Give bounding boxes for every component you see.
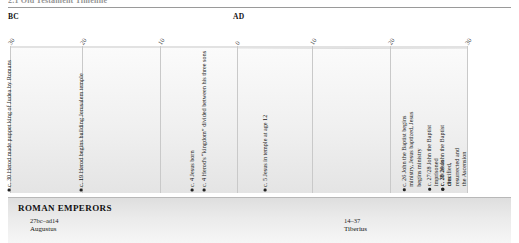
event-bullet-icon — [8, 189, 11, 192]
event-bullet-icon — [80, 189, 83, 192]
axis-tick-4: 10 — [308, 37, 317, 46]
roman-emperors-panel: ROMAN EMPERORS 27bc–ad14Augustus14–37Tib… — [8, 197, 511, 243]
event-label: c. 30 Herod made puppet king of Judea by… — [5, 60, 12, 187]
event-bullet-icon — [264, 189, 267, 192]
event-label: c. 26 John the Baptist begins ministry, … — [400, 94, 422, 187]
event-bullet-icon — [428, 189, 431, 192]
event-label: c. 4 Jesus born — [188, 150, 195, 186]
event-bullet-icon — [403, 189, 406, 192]
axis-tick-2: 10 — [156, 37, 165, 46]
band-curve-highlight — [237, 48, 467, 49]
reign-years: 14–37 — [344, 216, 367, 225]
event-bullet-icon — [191, 189, 194, 192]
emperor-reign: 27bc–ad14Augustus — [30, 216, 59, 234]
event-bullet-icon — [203, 189, 206, 192]
emperor-reign: 14–37Tiberius — [344, 216, 367, 234]
era-label-ad: AD — [233, 12, 244, 21]
axis-tick-labels: 3020100102030 — [0, 28, 519, 46]
axis-tick-3: 0 — [233, 39, 241, 46]
event-label: c. 30 Jesus crucified, resurrected and t… — [438, 140, 468, 187]
header-divider — [8, 7, 511, 8]
timeline-event: c. 5 Jesus in temple at age 12 — [268, 51, 345, 191]
reign-years: 27bc–ad14 — [30, 216, 59, 225]
event-label: c. 4 Herod's “kingdom” divided between h… — [200, 51, 207, 187]
event-label: c. 19 Herod begins building Jerusalem te… — [77, 73, 84, 187]
axis-tick-1: 20 — [78, 37, 87, 46]
reign-emperor-name: Tiberius — [344, 225, 367, 234]
roman-emperors-title: ROMAN EMPERORS — [18, 203, 112, 213]
timeline-event: c. 30 Jesus crucified, resurrected and t… — [468, 51, 519, 191]
axis-tick-6: 30 — [463, 37, 472, 46]
timeline-plot: c. 30 Herod made puppet king of Judea by… — [0, 46, 519, 193]
axis-tick-5: 20 — [386, 37, 395, 46]
reign-emperor-name: Augustus — [30, 225, 59, 234]
timeline-event: c. 19 Herod begins building Jerusalem te… — [84, 51, 202, 191]
era-label-bc: BC — [8, 12, 19, 21]
running-head: 2.1 Old Testament Timeline — [8, 0, 107, 5]
event-label: c. 5 Jesus in temple at age 12 — [261, 114, 268, 186]
gridline-5 — [390, 46, 391, 193]
axis-tick-0: 30 — [6, 37, 15, 46]
